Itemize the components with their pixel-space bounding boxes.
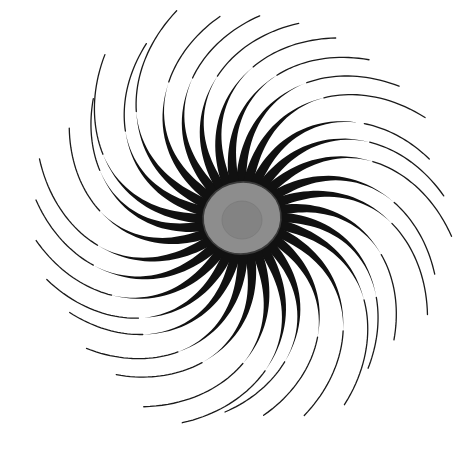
illustration-canvas [0, 0, 475, 464]
nucleus-blob [222, 201, 262, 239]
radiolarian-figure [0, 0, 475, 464]
